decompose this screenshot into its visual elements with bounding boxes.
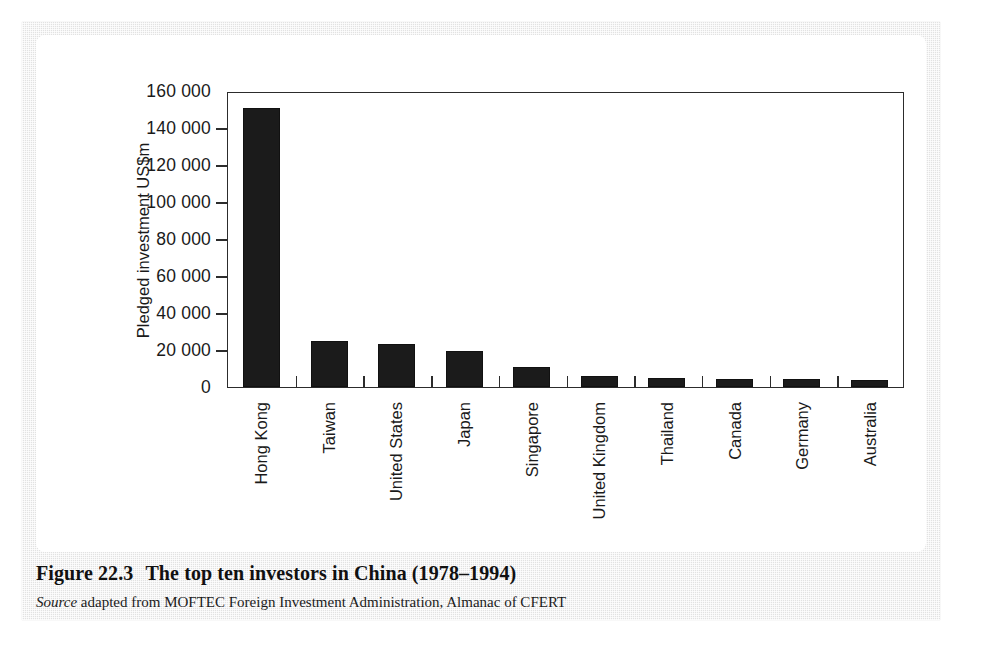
plot-area <box>227 92 904 388</box>
bar-slot <box>498 93 566 387</box>
y-axis-tick-label: 120 000 <box>146 157 211 175</box>
x-axis-label-canada: Canada <box>725 402 744 460</box>
x-axis-label-slot: Australia <box>836 394 904 544</box>
bar-germany <box>783 379 820 387</box>
bar-series <box>228 93 903 387</box>
x-axis-label-united-kingdom: United Kingdom <box>590 402 609 519</box>
y-axis-tick-mark <box>216 165 227 167</box>
figure-source: Source adapted from MOFTEC Foreign Inves… <box>36 594 926 611</box>
x-axis-label-slot: United States <box>362 394 430 544</box>
x-axis-label-slot: Singapore <box>498 394 566 544</box>
x-axis-label-united-states: United States <box>387 402 406 501</box>
y-axis-tick-mark <box>216 313 227 315</box>
figure-caption: Figure 22.3The top ten investors in Chin… <box>36 562 926 585</box>
bar-slot <box>768 93 836 387</box>
x-axis-label-hong-kong: Hong Kong <box>251 402 270 485</box>
y-axis-tick-label: 60 000 <box>156 268 211 286</box>
figure-panel: Pledged investment US$m 020 00040 00060 … <box>36 35 926 552</box>
x-axis-label-australia: Australia <box>861 402 880 466</box>
y-axis-tick-label: 100 000 <box>146 194 211 212</box>
x-axis-label-slot: Thailand <box>633 394 701 544</box>
y-axis-tick-mark <box>216 128 227 130</box>
y-axis-tick-label: 40 000 <box>156 305 211 323</box>
bar-japan <box>446 351 483 387</box>
bar-slot <box>701 93 769 387</box>
y-axis-tick-label: 160 000 <box>146 83 211 101</box>
x-axis-label-slot: Hong Kong <box>227 394 295 544</box>
y-axis-tick-mark <box>216 202 227 204</box>
x-axis-category-labels: Hong KongTaiwanUnited StatesJapanSingapo… <box>227 394 904 544</box>
y-axis-tick-mark <box>216 91 227 93</box>
bar-slot <box>836 93 904 387</box>
y-axis: 020 00040 00060 00080 000100 000120 0001… <box>36 92 227 388</box>
x-axis-label-slot: Canada <box>701 394 769 544</box>
x-axis-label-slot: United Kingdom <box>566 394 634 544</box>
y-axis-tick-mark <box>216 350 227 352</box>
bar-taiwan <box>311 341 348 387</box>
source-label: Source <box>36 594 77 610</box>
bar-singapore <box>513 367 550 387</box>
scanned-page-background: Pledged investment US$m 020 00040 00060 … <box>22 22 940 620</box>
x-axis-label-taiwan: Taiwan <box>319 402 338 453</box>
bar-slot <box>296 93 364 387</box>
bar-slot <box>633 93 701 387</box>
bar-australia <box>851 380 888 387</box>
y-axis-tick-label: 0 <box>201 379 211 397</box>
figure-number: Figure 22.3 <box>36 562 133 584</box>
x-axis-label-singapore: Singapore <box>522 402 541 477</box>
y-axis-tick-mark <box>216 387 227 389</box>
y-axis-tick-label: 80 000 <box>156 231 211 249</box>
x-axis-label-slot: Japan <box>430 394 498 544</box>
x-axis-label-thailand: Thailand <box>658 402 677 465</box>
bar-hong-kong <box>243 108 280 387</box>
bar-slot <box>566 93 634 387</box>
y-axis-tick-label: 20 000 <box>156 342 211 360</box>
bar-united-states <box>378 344 415 387</box>
y-axis-tick-mark <box>216 239 227 241</box>
y-axis-tick-mark <box>216 276 227 278</box>
bar-canada <box>716 379 753 387</box>
caption-area: Figure 22.3The top ten investors in Chin… <box>36 562 926 611</box>
source-detail: adapted from MOFTEC Foreign Investment A… <box>77 594 566 610</box>
figure-title: The top ten investors in China (1978–199… <box>145 562 516 584</box>
bar-slot <box>363 93 431 387</box>
x-axis-label-japan: Japan <box>454 402 473 447</box>
x-axis-label-germany: Germany <box>793 402 812 470</box>
bar-united-kingdom <box>581 376 618 387</box>
bar-slot <box>228 93 296 387</box>
y-axis-tick-label: 140 000 <box>146 120 211 138</box>
x-axis-label-slot: Germany <box>769 394 837 544</box>
x-axis-label-slot: Taiwan <box>295 394 363 544</box>
bar-thailand <box>648 378 685 387</box>
bar-slot <box>431 93 499 387</box>
